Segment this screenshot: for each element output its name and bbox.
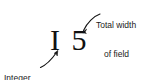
callout-total-width: Total width of field — [96, 2, 136, 78]
callout-total-width-line-1: Total width — [96, 21, 136, 31]
callout-total-width-line-2: of field — [104, 50, 136, 60]
callout-integer-number-line-1: Integer — [4, 74, 33, 80]
field-sample-text: I 5 — [50, 25, 89, 55]
figure-container: I 5 Total width of field Integer number — [0, 0, 152, 80]
callout-integer-number: Integer number — [4, 55, 33, 80]
